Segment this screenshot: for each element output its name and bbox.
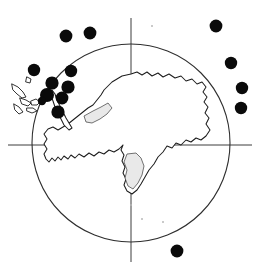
island-small-west — [26, 77, 31, 83]
map-speck — [130, 204, 132, 206]
island-shetland-b — [20, 98, 31, 106]
sample-point[interactable] — [28, 64, 40, 76]
sample-point[interactable] — [65, 65, 77, 77]
sample-point[interactable] — [171, 245, 184, 258]
sample-point[interactable] — [56, 92, 69, 105]
island-south-georgia — [14, 104, 23, 114]
scotia-arc-islands — [12, 77, 40, 114]
sample-point[interactable] — [61, 80, 74, 93]
sample-point[interactable] — [235, 102, 247, 114]
map-speck — [141, 218, 143, 220]
sample-point[interactable] — [236, 82, 248, 94]
sample-point[interactable] — [51, 105, 64, 118]
sample-point[interactable] — [45, 76, 58, 89]
sample-point[interactable] — [60, 30, 73, 43]
antarctica-map-figure — [0, 0, 260, 267]
sample-point[interactable] — [84, 27, 97, 40]
island-orkney-b — [27, 108, 37, 113]
map-speck — [151, 25, 153, 27]
sample-point[interactable] — [210, 20, 223, 33]
sample-point[interactable] — [38, 97, 46, 105]
map-canvas — [0, 0, 260, 267]
sample-point[interactable] — [225, 57, 237, 69]
map-speck — [162, 221, 164, 223]
island-shetland-a — [12, 84, 26, 98]
